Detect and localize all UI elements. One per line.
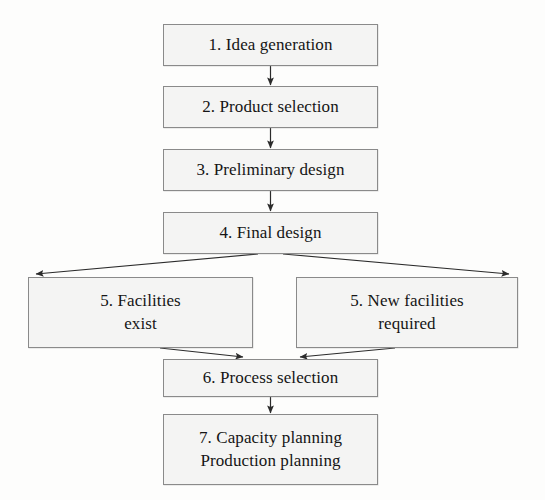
node-preliminary-design: 3. Preliminary design: [163, 149, 378, 191]
node-capacity-production-planning: 7. Capacity planning Production planning: [163, 414, 378, 485]
node-new-facilities-required: 5. New facilities required: [296, 277, 518, 348]
node-label-line: 4. Final design: [219, 222, 321, 244]
node-label-line: exist: [124, 313, 157, 335]
node-label-line: 7. Capacity planning: [199, 427, 342, 449]
node-product-selection: 2. Product selection: [163, 86, 378, 128]
node-idea-generation: 1. Idea generation: [163, 24, 378, 66]
node-label-line: 5. Facilities: [100, 290, 181, 312]
node-label-line: 5. New facilities: [350, 290, 464, 312]
edge-new-facilities-to-process: [300, 348, 395, 357]
node-label-line: 6. Process selection: [203, 367, 339, 389]
node-final-design: 4. Final design: [163, 212, 378, 254]
edge-final-to-new-facilities: [283, 254, 509, 274]
node-label-line: 2. Product selection: [202, 96, 339, 118]
node-label-line: 3. Preliminary design: [197, 159, 345, 181]
node-process-selection: 6. Process selection: [163, 359, 378, 397]
node-label-line: 1. Idea generation: [208, 34, 332, 56]
node-label-line: Production planning: [200, 450, 340, 472]
flowchart-diagram: 1. Idea generation 2. Product selection …: [0, 0, 545, 500]
node-label-line: required: [378, 313, 435, 335]
node-facilities-exist: 5. Facilities exist: [28, 277, 253, 348]
edge-facilities-exist-to-process: [160, 348, 243, 357]
edge-final-to-facilities-exist: [36, 254, 258, 274]
